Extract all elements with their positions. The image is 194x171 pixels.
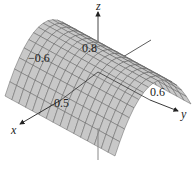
surface-plot: z x y 0.8 −0.6 0.5 0.6: [0, 0, 194, 171]
x-tick-label-pos: 0.5: [54, 96, 69, 110]
y-axis-label: y: [180, 107, 187, 121]
y-tick-label-pos: 0.6: [150, 85, 165, 99]
z-tick-label: 0.8: [82, 41, 97, 55]
z-axis-label: z: [95, 0, 101, 13]
x-tick-label-neg: −0.6: [28, 51, 50, 65]
y-axis-front: [150, 100, 178, 111]
x-axis-label: x: [10, 123, 17, 137]
